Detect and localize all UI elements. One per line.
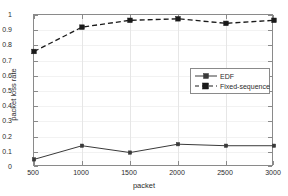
chart-figure: 00.10.20.30.40.50.60.70.80.91 5001000150… <box>0 0 288 196</box>
x-tick-label: 2000 <box>169 169 185 176</box>
data-point-marker <box>128 18 133 23</box>
y-tick-label: 0.9 <box>0 26 12 33</box>
legend-sample-solid <box>194 71 218 81</box>
y-axis-title: packet loss rate <box>9 45 18 145</box>
x-axis-title: packet <box>0 181 288 190</box>
data-point-marker <box>32 158 35 161</box>
x-tick-label: 1500 <box>121 169 137 176</box>
data-point-marker <box>176 143 179 146</box>
data-point-marker <box>272 144 275 147</box>
x-tick-label: 3000 <box>265 169 281 176</box>
data-point-marker <box>80 144 83 147</box>
x-tick-label: 2500 <box>217 169 233 176</box>
data-point-marker <box>224 21 229 26</box>
data-point-marker <box>224 144 227 147</box>
x-tick-label: 500 <box>27 169 39 176</box>
data-point-marker <box>128 151 131 154</box>
data-point-marker <box>176 17 181 22</box>
x-tick-label: 1000 <box>73 169 89 176</box>
series-line-fixed-sequence <box>34 19 274 52</box>
legend-label-fixed-sequence: Fixed-sequence <box>220 83 270 90</box>
data-point-marker <box>32 49 37 54</box>
legend-sample-dashed <box>194 81 218 91</box>
y-tick-label: 1 <box>0 11 12 18</box>
y-tick-label: 0.1 <box>0 147 12 154</box>
legend-item-fixed-sequence: Fixed-sequence <box>194 81 266 91</box>
legend-item-edf: EDF <box>194 71 266 81</box>
data-point-marker <box>80 25 85 30</box>
chart-legend: EDF Fixed-sequence <box>190 68 270 94</box>
data-point-marker <box>272 18 277 23</box>
legend-label-edf: EDF <box>220 73 234 80</box>
y-tick-label: 0 <box>0 163 12 170</box>
series-line-edf <box>34 144 274 159</box>
